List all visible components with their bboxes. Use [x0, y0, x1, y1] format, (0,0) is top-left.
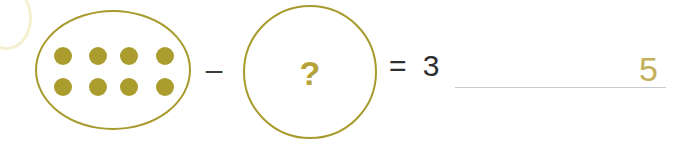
answer-rule-line: [455, 87, 666, 88]
dot-cell: [114, 40, 145, 71]
counter-dot-grid: [52, 40, 176, 102]
dot-cell: [114, 71, 145, 102]
dot-cell: [83, 71, 114, 102]
dot-cell: [145, 71, 176, 102]
counter-dot: [54, 78, 72, 96]
counter-dot: [54, 47, 72, 65]
counter-dot: [156, 47, 174, 65]
scan-edge-artifact: [0, 0, 32, 50]
counter-dot: [120, 47, 138, 65]
dot-cell: [52, 71, 83, 102]
answer-blank[interactable]: 5: [455, 44, 666, 88]
dot-cell: [83, 40, 114, 71]
dot-cell: [52, 40, 83, 71]
counter-dot: [89, 47, 107, 65]
unknown-quantity-circle[interactable]: ?: [243, 5, 377, 139]
equals-difference-expression: = 3: [389, 48, 444, 84]
counter-dot: [156, 78, 174, 96]
question-mark-symbol: ?: [300, 56, 321, 90]
counter-dot: [120, 78, 138, 96]
worksheet-problem: – ? = 3 5: [0, 0, 673, 143]
written-answer: 5: [639, 51, 658, 87]
minus-operator: –: [203, 52, 225, 88]
dot-cell: [145, 40, 176, 71]
counter-dot: [89, 78, 107, 96]
counter-group-ellipse: [35, 10, 191, 130]
